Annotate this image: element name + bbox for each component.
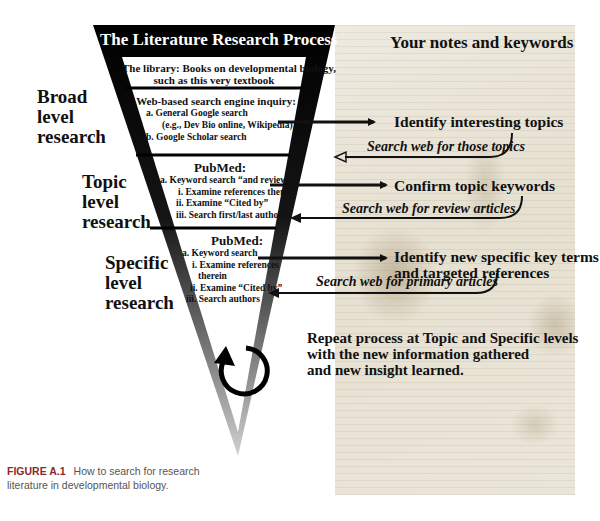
section-library-heading: The library: Books on developmental biol… [122, 62, 306, 74]
level-broad-line1: Broad [37, 87, 106, 107]
notes-title: Your notes and keywords [390, 33, 573, 53]
section-web-heading: Web-based search engine inquiry: [136, 95, 296, 107]
level-topic-line3: research [82, 212, 151, 232]
section-web-search: Web-based search engine inquiry: a. Gene… [136, 95, 296, 143]
level-label-topic: Topic level research [82, 172, 151, 232]
pubmed-specific-item-iii: iii. Search authors [182, 294, 292, 306]
pubmed-topic-heading: PubMed: [150, 160, 290, 175]
note-identify-terms-line1: Identify new specific key terms [394, 249, 599, 265]
pubmed-specific-item-a: a. Keyword search [182, 248, 292, 260]
caption-text-line2: literature in developmental biology. [7, 478, 247, 492]
figure-caption: FIGURE A.1How to search for research lit… [7, 464, 247, 492]
section-library-subheading: such as this very textbook [122, 74, 306, 86]
note-search-review: Search web for review articles [342, 201, 515, 217]
level-broad-line3: research [37, 127, 106, 147]
section-pubmed-topic: PubMed: a. Keyword search “and review” i… [150, 160, 290, 221]
pubmed-specific-item-i: i. Examine references [182, 260, 292, 272]
web-item-a: a. General Google search [136, 107, 296, 119]
pubmed-topic-item-ii: ii. Examine “Cited by” [150, 198, 290, 210]
note-confirm-keywords: Confirm topic keywords [394, 177, 555, 195]
level-specific-line3: research [105, 293, 174, 313]
level-label-specific: Specific level research [105, 253, 174, 313]
note-repeat-process: Repeat process at Topic and Specific lev… [307, 330, 578, 378]
note-repeat-line2: with the new information gathered [307, 346, 578, 362]
pubmed-specific-item-i-cont: therein [182, 271, 292, 283]
level-specific-line1: Specific [105, 253, 174, 273]
funnel-title: The Literature Research Process [100, 30, 330, 50]
pubmed-specific-heading: PubMed: [182, 233, 292, 248]
pubmed-specific-item-ii: ii. Examine “Cited by” [182, 283, 292, 295]
pubmed-topic-item-iii: iii. Search first/last authors [150, 210, 290, 222]
note-search-primary: Search web for primary articles [316, 274, 498, 290]
note-search-topics: Search web for those topics [367, 139, 525, 155]
note-repeat-line1: Repeat process at Topic and Specific lev… [307, 330, 578, 346]
note-identify-topics: Identify interesting topics [394, 113, 563, 131]
level-topic-line2: level [82, 192, 151, 212]
figure-label: FIGURE A.1 [7, 465, 66, 477]
web-item-a-example: (e.g., Dev Bio online, Wikipedia) [136, 119, 296, 131]
level-label-broad: Broad level research [37, 87, 106, 147]
section-library: The library: Books on developmental biol… [122, 62, 306, 86]
pubmed-topic-item-a: a. Keyword search “and review” [150, 175, 290, 187]
note-repeat-line3: and new insight learned. [307, 362, 578, 378]
level-broad-line2: level [37, 107, 106, 127]
level-topic-line1: Topic [82, 172, 151, 192]
pubmed-topic-item-i: i. Examine references therein [150, 187, 290, 199]
web-item-b: b. Google Scholar search [136, 131, 296, 143]
level-specific-line2: level [105, 273, 174, 293]
section-pubmed-specific: PubMed: a. Keyword search i. Examine ref… [182, 233, 292, 306]
caption-text-line1: How to search for research [74, 465, 200, 477]
